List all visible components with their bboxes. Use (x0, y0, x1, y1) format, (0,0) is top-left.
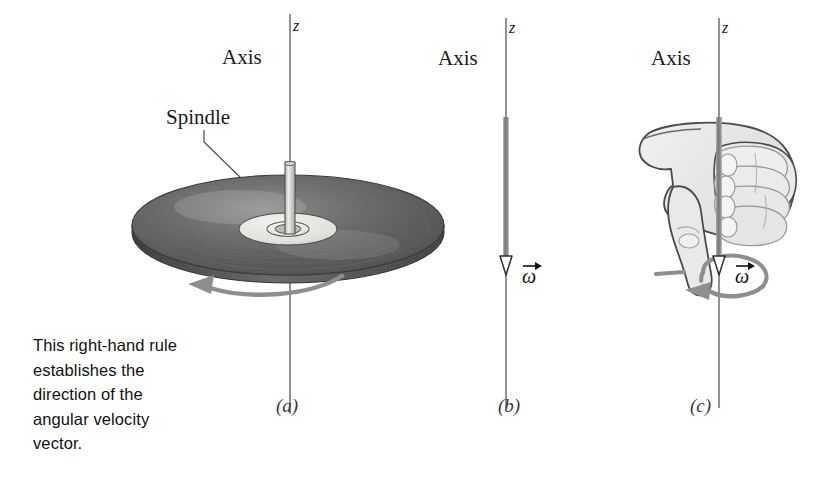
panel-c-omega-glyph: ω (735, 266, 755, 286)
panel-a-rotation-arrow (180, 266, 350, 314)
panel-b-axis-label: Axis (438, 48, 478, 69)
panel-b-label: (b) (498, 396, 520, 415)
panel-c-omega-vector (705, 117, 739, 282)
panel-b: z Axis ω (b) (430, 0, 620, 499)
panel-b-omega-glyph: ω (522, 266, 542, 286)
panel-c-z-label: z (722, 20, 728, 36)
panel-a-spindle (280, 162, 300, 242)
figure-right-hand-rule: z Axis Spindle (0, 0, 823, 499)
panel-a-label: (a) (276, 396, 298, 415)
panel-c-label: (c) (690, 396, 711, 415)
panel-c-omega-label: ω (735, 260, 755, 286)
panel-c-thumb-arrow (640, 262, 690, 282)
panel-b-omega-label: ω (522, 260, 542, 286)
panel-c: z Axis (620, 0, 823, 499)
figure-caption: This right-hand rule establishes the dir… (33, 333, 243, 456)
panel-c-axis-label: Axis (651, 48, 691, 69)
panel-a-axis-label: Axis (222, 47, 262, 68)
panel-b-omega-vector (492, 117, 526, 282)
panel-b-z-label: z (509, 20, 515, 36)
panel-a-spindle-label: Spindle (166, 107, 230, 128)
panel-a-z-label: z (293, 18, 299, 34)
